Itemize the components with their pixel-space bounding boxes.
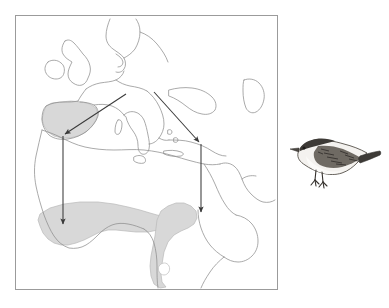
coast-great-britain xyxy=(62,40,90,85)
coast-crete xyxy=(164,150,183,156)
coast-red-sea-west xyxy=(204,164,236,215)
coast-baltic xyxy=(140,32,168,62)
coast-arabia xyxy=(220,163,275,202)
warbler-illustration xyxy=(288,118,384,196)
coast-western-europe xyxy=(78,71,147,101)
coast-black-sea xyxy=(169,88,216,115)
map-panel xyxy=(15,15,278,290)
bird-illustration xyxy=(288,118,384,196)
figure-root xyxy=(0,0,389,308)
map-svg xyxy=(16,16,277,289)
iberian-breeding-range xyxy=(42,101,98,138)
bird-eye xyxy=(303,147,306,150)
coast-caspian xyxy=(243,79,264,113)
coast-horn-of-africa xyxy=(201,215,258,288)
west-africa-wintering-range xyxy=(38,202,170,245)
coast-anatolia xyxy=(169,140,226,156)
bird-beak xyxy=(290,148,299,152)
coast-sicily xyxy=(134,156,146,164)
coast-ireland xyxy=(45,60,64,79)
coast-balkans-greece xyxy=(147,91,169,144)
range-shading-group xyxy=(38,101,197,288)
coast-italy xyxy=(124,112,149,155)
coast-sardinia xyxy=(115,120,122,135)
lake-victoria-hole xyxy=(158,263,169,275)
coast-east-africa-inland xyxy=(198,210,224,257)
